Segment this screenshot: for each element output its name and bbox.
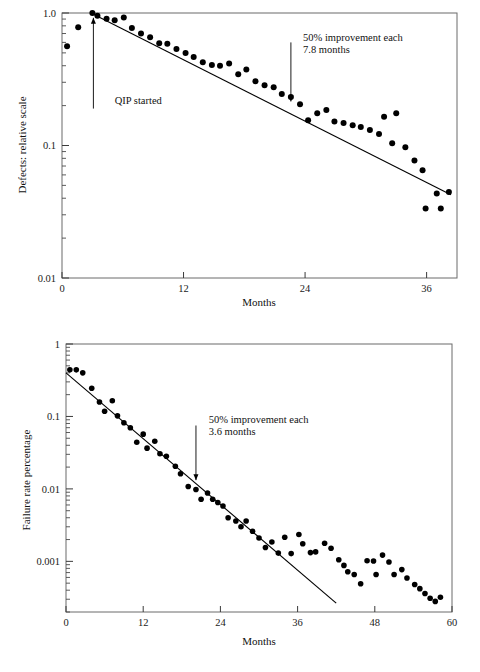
data-point (94, 13, 100, 19)
data-point (164, 453, 170, 459)
data-point (233, 518, 239, 524)
failure-rate-y-axis-title: Failure rate percentage (20, 430, 32, 531)
data-point (308, 550, 314, 556)
data-point (345, 569, 351, 575)
failure-rate-x-axis-ticks (66, 606, 452, 612)
data-point (341, 120, 347, 126)
improvement-rate-label: 3.6 months (209, 426, 256, 437)
data-point (393, 110, 399, 116)
defects-annotations: QIP started50% improvement each7.8 month… (91, 18, 404, 109)
data-point (104, 16, 110, 22)
data-point (173, 46, 179, 52)
data-point (121, 420, 127, 426)
data-point (422, 591, 428, 597)
defects-x-axis-title: Months (242, 296, 276, 308)
data-point (305, 117, 311, 123)
failure-rate-data-points (67, 367, 443, 604)
data-point (138, 31, 144, 37)
data-point (210, 496, 216, 502)
qip-started-arrow-head (91, 18, 96, 24)
data-point (80, 370, 86, 376)
data-point (282, 534, 288, 540)
data-point (156, 40, 162, 46)
data-point (191, 54, 197, 60)
data-point (296, 532, 302, 538)
failure-rate-y-axis-ticks (66, 344, 73, 612)
data-point (220, 503, 226, 509)
x-tick-label: 24 (215, 617, 226, 628)
defects-x-axis-ticks (62, 272, 427, 278)
improvement-rate-label: 7.8 months (303, 44, 350, 55)
data-point (373, 572, 379, 578)
data-point (134, 439, 140, 445)
data-point (209, 62, 215, 68)
data-point (412, 582, 418, 588)
defects-y-axis-title: Defects: relative scale (16, 96, 28, 193)
data-point (364, 558, 370, 564)
data-point (110, 398, 116, 404)
defects-x-tick-labels: 0122436 (59, 283, 431, 294)
data-point (391, 572, 397, 578)
data-point (173, 464, 179, 470)
x-tick-label: 48 (370, 617, 381, 628)
x-tick-label: 60 (447, 617, 458, 628)
data-point (193, 487, 199, 493)
improvement-rate-label: 50% improvement each (303, 32, 403, 43)
data-point (75, 24, 81, 30)
data-point (386, 559, 392, 565)
data-point (399, 567, 405, 573)
data-point (128, 425, 134, 431)
data-point (358, 124, 364, 130)
data-point (434, 190, 440, 196)
data-point (225, 515, 231, 521)
y-tick-label: 0.01 (38, 273, 56, 284)
data-point (217, 63, 223, 69)
data-point (336, 557, 342, 563)
data-point (389, 140, 395, 146)
defects-figure: 1.00.10.01 0122436 QIP started50% improv… (0, 0, 480, 340)
data-point (183, 50, 189, 56)
data-point (152, 438, 158, 444)
qip-started-label: QIP started (115, 95, 163, 106)
data-point (129, 25, 135, 31)
data-point (350, 122, 356, 128)
data-point (263, 545, 269, 551)
data-point (67, 367, 73, 373)
data-point (323, 107, 329, 113)
data-point (121, 14, 127, 20)
data-point (73, 367, 79, 373)
x-tick-label: 12 (138, 617, 149, 628)
data-point (288, 551, 294, 557)
data-point (371, 558, 377, 564)
data-point (64, 43, 70, 49)
data-point (157, 451, 163, 457)
x-tick-label: 24 (300, 283, 311, 294)
failure-rate-annotations: 50% improvement each3.6 months (193, 414, 309, 480)
data-point (432, 599, 438, 605)
failure-rate-figure: 10.10.010.001 01224364860 50% improvemen… (0, 332, 480, 672)
data-point (276, 550, 282, 556)
defects-y-tick-labels: 1.00.10.01 (38, 8, 56, 284)
data-point (112, 17, 118, 23)
data-point (313, 549, 319, 555)
data-point (269, 539, 275, 545)
data-point (140, 431, 146, 437)
data-point (164, 41, 170, 47)
data-point (185, 484, 191, 490)
data-point (297, 101, 303, 107)
data-point (178, 471, 184, 477)
x-tick-label: 12 (178, 283, 189, 294)
data-point (250, 528, 256, 534)
data-point (438, 205, 444, 211)
data-point (427, 595, 433, 601)
x-tick-label: 36 (421, 283, 432, 294)
improvement-rate-arrow-head (193, 474, 198, 480)
data-point (417, 586, 423, 592)
data-point (97, 399, 103, 405)
y-tick-label: 0.1 (43, 140, 56, 151)
data-point (226, 61, 232, 67)
data-point (438, 594, 444, 600)
failure-rate-x-axis-title: Months (242, 635, 276, 647)
failure-rate-chart-canvas: 10.10.010.001 01224364860 50% improvemen… (0, 332, 480, 672)
defects-plot-frame (62, 13, 457, 278)
